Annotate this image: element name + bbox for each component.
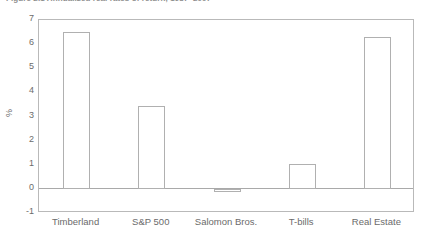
- bar: [138, 106, 165, 189]
- x-axis-tick-label: Real Estate: [339, 216, 414, 228]
- y-axis-tick-label: 1: [6, 159, 34, 168]
- bar-chart: 76543210-1 % TimberlandS&P 500Salomon Br…: [0, 0, 430, 248]
- y-axis-tick-label: 7: [6, 14, 34, 23]
- x-axis-tick-label: Timberland: [38, 216, 113, 228]
- y-axis: 76543210-1: [0, 0, 34, 248]
- x-axis-tick-label: Salomon Bros.: [188, 216, 263, 228]
- x-axis-tick-label: T-bills: [264, 216, 339, 228]
- x-axis: TimberlandS&P 500Salomon Bros.T-billsRea…: [38, 216, 414, 232]
- y-axis-title: %: [4, 106, 14, 120]
- bar: [289, 164, 316, 189]
- bar: [364, 37, 391, 189]
- plot-frame: [38, 19, 414, 212]
- y-axis-tick-label: 6: [6, 38, 34, 47]
- y-axis-tick-label: -1: [6, 207, 34, 216]
- x-axis-tick-label: S&P 500: [113, 216, 188, 228]
- bar: [63, 32, 90, 189]
- plot-area: [39, 20, 413, 211]
- y-axis-tick-label: 2: [6, 135, 34, 144]
- y-axis-tick-label: 4: [6, 86, 34, 95]
- y-axis-tick-label: 5: [6, 62, 34, 71]
- y-axis-tick-label: 0: [6, 183, 34, 192]
- bar: [214, 189, 241, 193]
